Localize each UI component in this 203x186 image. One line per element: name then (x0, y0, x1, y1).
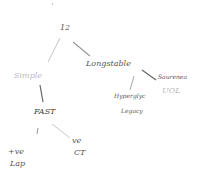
node-ct: CT (74, 149, 85, 157)
edge-root-longstable (73, 42, 90, 56)
node-saurenea: Saurenea (158, 74, 187, 80)
node-hyperglyc: Hyperglyc (114, 93, 145, 99)
edge-root-simple (48, 38, 60, 62)
node-fast: FAST (34, 108, 55, 116)
node-neg: ve (72, 137, 81, 145)
node-legacy: Legacy (121, 108, 143, 114)
node-uol: UOL (162, 87, 181, 95)
edge-fast-negct (52, 124, 70, 138)
edge-longstable-saurenea (142, 70, 156, 80)
edge-longstable-hyperglyc (130, 76, 134, 90)
node-simple: Simple (14, 72, 42, 80)
node-root: 12 (60, 24, 70, 32)
node-pos: +ve (8, 148, 24, 156)
node-lap: Lap (10, 160, 25, 168)
edge-fast-poslap (37, 128, 38, 134)
node-longstable: Longstable (86, 60, 131, 68)
edge-simple-fast (40, 85, 43, 102)
